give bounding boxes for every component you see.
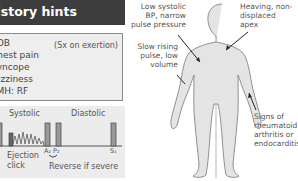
pulse-annotation: Slow rising pulse, low volume	[133, 42, 178, 69]
bp-annotation: Low systolic BP, narrow pulse pressure	[131, 2, 186, 29]
signs-annotation: Signs of rheumatoid arthritis or endocar…	[254, 112, 298, 148]
apex-annotation: Heaving, non-displaced apex	[240, 2, 296, 29]
